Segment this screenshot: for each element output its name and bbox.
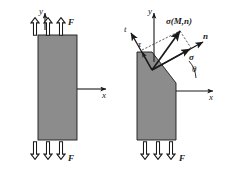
normal-stress-label: σ xyxy=(189,52,195,62)
shear-stress-label: τ xyxy=(138,39,142,49)
load-arrow-down xyxy=(141,142,149,160)
bottom-load-arrows-right xyxy=(141,142,175,160)
theta-angle-label: θ xyxy=(192,64,197,74)
top-load-arrows-left xyxy=(31,18,65,36)
x-axis-label-left: x xyxy=(101,90,106,100)
y-axis-label-right: y xyxy=(147,6,152,16)
force-label-top-left: F xyxy=(67,17,74,27)
total-stress-label: σ(M,n) xyxy=(166,16,192,26)
force-label-bottom-left: F xyxy=(67,153,74,163)
load-arrow-down xyxy=(31,142,39,160)
bar-body-right xyxy=(137,52,176,140)
figure-canvas: y x F F xyxy=(0,0,229,175)
normal-axis-label: n xyxy=(203,31,208,41)
total-stress-vector xyxy=(152,31,180,70)
load-arrow-down xyxy=(154,142,162,160)
right-panel-group: y x t τ σ(M,n) n σ θ F xyxy=(124,6,213,163)
load-arrow-down xyxy=(44,142,52,160)
left-panel-group: y x F F xyxy=(31,6,106,163)
construction-line-tau xyxy=(142,31,180,50)
x-axis-label-right: x xyxy=(208,92,213,102)
construction-line-sigma xyxy=(180,31,191,48)
force-label-bottom-right: F xyxy=(178,153,185,163)
load-arrow-down xyxy=(167,142,175,160)
figure-root: y x F F xyxy=(0,0,229,175)
load-arrow-up xyxy=(57,18,65,36)
bottom-load-arrows-left xyxy=(31,142,65,160)
tangent-axis-label: t xyxy=(124,24,127,34)
y-axis-label-left: y xyxy=(38,6,43,16)
load-arrow-down xyxy=(57,142,65,160)
load-arrow-up xyxy=(31,18,39,36)
theta-leader xyxy=(176,80,196,91)
bar-body-left xyxy=(38,35,77,140)
